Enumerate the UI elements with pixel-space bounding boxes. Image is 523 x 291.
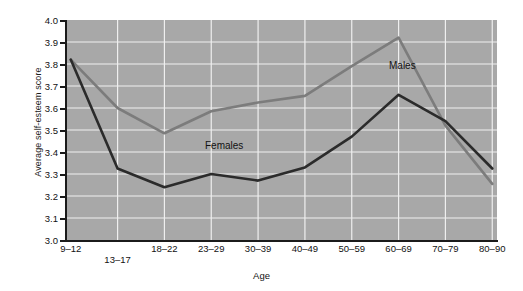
x-tick-label: 60–69 [385,243,411,254]
gridlines [66,20,497,240]
x-tick-label: 18–22 [151,243,177,254]
y-tick-label: 3.6 [45,103,58,114]
y-tick-label: 4.0 [45,15,58,26]
x-axis-title: Age [0,270,523,281]
y-tick-label: 3.5 [45,125,58,136]
y-tick-label: 3.8 [45,59,58,70]
series-label-females: Females [205,140,243,151]
series-label-males: Males [389,60,416,71]
y-tick-mark [60,20,66,22]
y-tick-mark [60,130,66,132]
y-tick-mark [60,218,66,220]
y-tick-label: 3.1 [45,213,58,224]
y-tick-label: 3.7 [45,81,58,92]
y-tick-mark [60,152,66,154]
y-tick-mark [60,108,66,110]
x-tick-label: 30–39 [245,243,271,254]
y-tick-mark [60,86,66,88]
y-tick-label: 3.9 [45,37,58,48]
y-tick-label: 3.3 [45,169,58,180]
x-tick-label: 9–12 [60,243,81,254]
y-tick-label: 3.4 [45,147,58,158]
x-tick-label: 23–29 [198,243,224,254]
y-tick-mark [60,174,66,176]
plot-area [66,20,497,240]
y-tick-mark [60,196,66,198]
series-lines [71,38,493,188]
y-tick-label: 3.2 [45,191,58,202]
x-axis-spine [65,240,498,242]
y-axis-tick-labels: 3.03.13.23.33.43.53.63.73.83.94.0 [30,20,58,240]
plot-svg [66,20,497,240]
y-tick-mark [60,64,66,66]
x-tick-label: 40–49 [292,243,318,254]
chart-figure: Average self-esteem score 3.03.13.23.33.… [0,0,523,291]
x-tick-label: 70–79 [432,243,458,254]
series-line-females [71,60,493,188]
x-tick-label: 50–59 [339,243,365,254]
y-tick-mark [60,42,66,44]
x-tick-label: 80–90 [479,243,505,254]
x-tick-label: 13–17 [104,254,130,265]
y-tick-mark [60,240,66,242]
